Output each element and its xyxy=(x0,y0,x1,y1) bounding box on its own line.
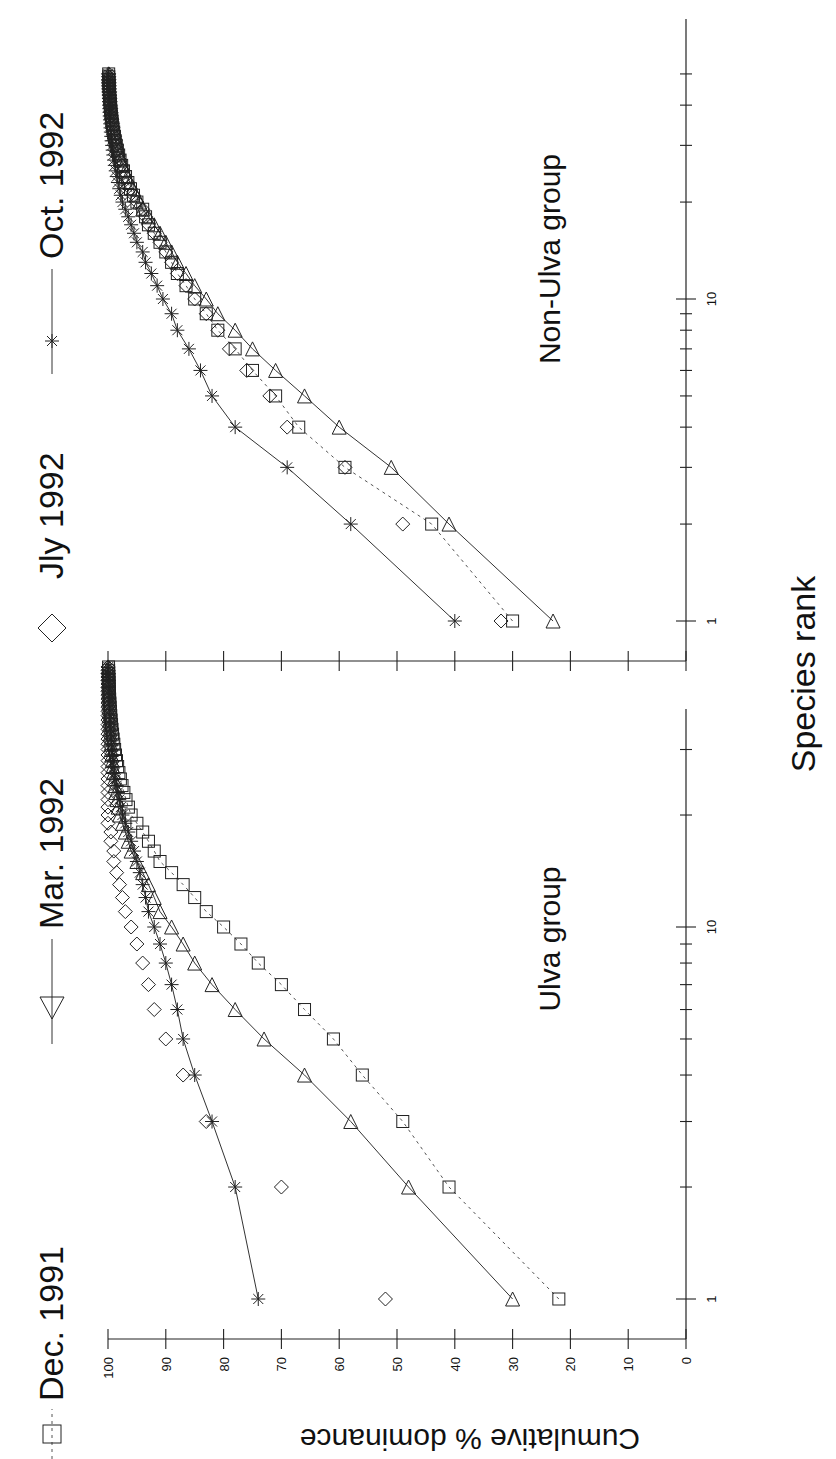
asterisk-marker-icon xyxy=(45,334,59,348)
diamond-marker-icon xyxy=(107,854,121,868)
y-tick-label: 60 xyxy=(332,1357,347,1371)
series-line xyxy=(109,667,559,1299)
diamond-marker-icon xyxy=(396,517,410,531)
diamond-marker-icon xyxy=(159,1032,173,1046)
asterisk-marker-icon xyxy=(141,905,155,919)
diamond-marker-icon xyxy=(199,307,213,321)
square-marker-icon xyxy=(356,1069,368,1081)
asterisk-marker-icon xyxy=(147,920,161,934)
asterisk-marker-icon xyxy=(182,342,196,356)
rotated-figure: Dec. 1991 Mar. 1992 Jly 1992 xyxy=(0,0,836,1459)
series-line xyxy=(108,74,454,621)
asterisk-marker-icon xyxy=(112,793,126,807)
legend: Dec. 1991 Mar. 1992 Jly 1992 xyxy=(32,112,70,1459)
diamond-marker-icon xyxy=(110,866,124,880)
square-marker-icon xyxy=(43,1425,61,1443)
diamond-marker-icon xyxy=(280,420,294,434)
y-tick-label: 70 xyxy=(274,1357,289,1371)
square-marker-icon xyxy=(200,308,212,320)
panel-label-non-ulva: Non-Ulva group xyxy=(533,154,566,364)
legend-label: Mar. 1992 xyxy=(32,778,70,929)
diamond-marker-icon xyxy=(338,460,352,474)
legend-label: Oct. 1992 xyxy=(32,112,70,259)
series-line xyxy=(108,667,258,1299)
diamond-marker-icon xyxy=(113,878,127,892)
y-tick-label: 10 xyxy=(621,1357,636,1371)
y-tick-label: 0 xyxy=(679,1357,694,1364)
asterisk-marker-icon xyxy=(344,517,358,531)
diamond-marker-icon xyxy=(115,891,129,905)
asterisk-marker-icon xyxy=(130,854,144,868)
square-marker-icon xyxy=(339,461,351,473)
y-tick-label: 80 xyxy=(217,1357,232,1371)
y-tick-label: 20 xyxy=(563,1357,578,1371)
x-tick-label: 10 xyxy=(704,292,719,306)
series-line xyxy=(108,667,512,1299)
asterisk-marker-icon xyxy=(136,245,150,259)
x-tick-label: 1 xyxy=(704,1295,719,1302)
asterisk-marker-icon xyxy=(133,866,147,880)
chart-canvas: Dec. 1991 Mar. 1992 Jly 1992 xyxy=(0,0,836,1459)
asterisk-marker-icon xyxy=(150,279,164,293)
asterisk-marker-icon xyxy=(170,1003,184,1017)
diamond-marker-icon xyxy=(494,614,508,628)
asterisk-marker-icon xyxy=(165,307,179,321)
asterisk-marker-icon xyxy=(205,1115,219,1129)
square-marker-icon xyxy=(212,324,224,336)
diamond-marker-icon xyxy=(141,978,155,992)
square-marker-icon xyxy=(180,280,192,292)
panel-ulva-group: 0102030405060708090100110 xyxy=(101,660,719,1379)
y-tick-label: 100 xyxy=(101,1357,116,1379)
asterisk-marker-icon xyxy=(124,834,138,848)
asterisk-marker-icon xyxy=(251,1292,265,1306)
legend-item-dec-1991: Dec. 1991 xyxy=(32,1246,70,1459)
legend-label: Jly 1992 xyxy=(32,452,70,579)
series-line xyxy=(109,74,553,621)
diamond-marker-icon xyxy=(274,1180,288,1194)
y-tick-label: 40 xyxy=(448,1357,463,1371)
asterisk-marker-icon xyxy=(165,978,179,992)
diamond-marker-icon xyxy=(139,210,153,224)
asterisk-marker-icon xyxy=(127,844,141,858)
panel-non-ulva-group: 110 xyxy=(101,19,719,671)
y-tick-label: 50 xyxy=(390,1357,405,1371)
asterisk-marker-icon xyxy=(280,460,294,474)
asterisk-marker-icon xyxy=(101,67,115,81)
asterisk-marker-icon xyxy=(228,1180,242,1194)
asterisk-marker-icon xyxy=(111,785,125,799)
y-axis-title: Cumulative % dominance xyxy=(300,1423,640,1456)
asterisk-marker-icon xyxy=(136,878,150,892)
asterisk-marker-icon xyxy=(153,937,167,951)
asterisk-marker-icon xyxy=(144,267,158,281)
asterisk-marker-icon xyxy=(193,363,207,377)
x-tick-label: 10 xyxy=(704,920,719,934)
diamond-marker-icon xyxy=(38,614,66,642)
diamond-marker-icon xyxy=(130,937,144,951)
y-tick-label: 90 xyxy=(159,1357,174,1371)
asterisk-marker-icon xyxy=(139,891,153,905)
asterisk-marker-icon xyxy=(130,235,144,249)
asterisk-marker-icon xyxy=(205,389,219,403)
x-tick-label: 1 xyxy=(704,617,719,624)
x-axis-title: Species rank xyxy=(784,575,822,773)
diamond-marker-icon xyxy=(147,1003,161,1017)
asterisk-marker-icon xyxy=(176,1032,190,1046)
legend-label: Dec. 1991 xyxy=(32,1246,70,1401)
asterisk-marker-icon xyxy=(170,323,184,337)
asterisk-marker-icon xyxy=(448,614,462,628)
legend-item-oct-1992: Oct. 1992 xyxy=(32,112,70,374)
legend-item-jly-1992: Jly 1992 xyxy=(32,452,70,642)
y-tick-label: 30 xyxy=(506,1357,521,1371)
square-marker-icon xyxy=(397,1116,409,1128)
diamond-marker-icon xyxy=(118,905,132,919)
square-marker-icon xyxy=(218,921,230,933)
asterisk-marker-icon xyxy=(121,825,135,839)
asterisk-marker-icon xyxy=(139,255,153,269)
panel-label-ulva: Ulva group xyxy=(533,866,566,1011)
asterisk-marker-icon xyxy=(114,800,128,814)
asterisk-marker-icon xyxy=(156,292,170,306)
diamond-marker-icon xyxy=(124,920,138,934)
diamond-marker-icon xyxy=(136,956,150,970)
legend-item-mar-1992: Mar. 1992 xyxy=(32,778,70,1044)
diamond-marker-icon xyxy=(211,323,225,337)
